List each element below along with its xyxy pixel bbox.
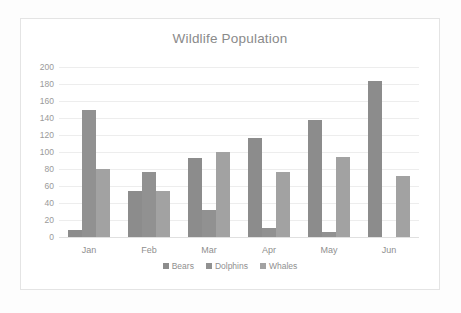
chart-legend: BearsDolphinsWhales <box>21 261 439 271</box>
bar-group-bars <box>359 67 419 237</box>
bar-whales-feb[interactable] <box>156 191 170 237</box>
bar-dolphins-may[interactable] <box>322 232 336 237</box>
x-axis-tick-label: Jun <box>359 245 419 255</box>
x-axis-tick-label: Mar <box>179 245 239 255</box>
y-axis-tick-label: 180 <box>40 79 54 89</box>
y-axis-tick-label: 0 <box>49 232 54 242</box>
bar-group: Apr <box>239 67 299 237</box>
legend-item-whales[interactable]: Whales <box>260 261 297 271</box>
y-axis-tick-label: 40 <box>45 198 54 208</box>
legend-item-bears[interactable]: Bears <box>163 261 194 271</box>
bar-group-bars <box>179 67 239 237</box>
bar-group: Feb <box>119 67 179 237</box>
legend-item-dolphins[interactable]: Dolphins <box>206 261 248 271</box>
y-axis-tick-label: 120 <box>40 130 54 140</box>
bar-dolphins-mar[interactable] <box>202 210 216 237</box>
x-axis-tick-label: Jan <box>59 245 119 255</box>
legend-label: Dolphins <box>215 261 248 271</box>
bar-whales-jan[interactable] <box>96 169 110 237</box>
legend-swatch-icon <box>206 263 212 269</box>
bar-group: Jan <box>59 67 119 237</box>
bar-bears-apr[interactable] <box>248 138 262 237</box>
bar-group: Jun <box>359 67 419 237</box>
chart-title: Wildlife Population <box>21 31 439 46</box>
bar-group-bars <box>239 67 299 237</box>
bar-bears-jun[interactable] <box>368 81 382 237</box>
legend-swatch-icon <box>260 263 266 269</box>
bar-group: Mar <box>179 67 239 237</box>
gridline <box>59 237 419 238</box>
legend-swatch-icon <box>163 263 169 269</box>
legend-label: Bears <box>172 261 194 271</box>
x-axis-tick-label: Apr <box>239 245 299 255</box>
bar-group-bars <box>119 67 179 237</box>
bar-whales-may[interactable] <box>336 157 350 237</box>
y-axis-tick-label: 200 <box>40 62 54 72</box>
bar-whales-apr[interactable] <box>276 172 290 237</box>
bar-group-bars <box>59 67 119 237</box>
bar-dolphins-jan[interactable] <box>82 110 96 237</box>
bar-dolphins-apr[interactable] <box>262 228 276 237</box>
bar-bears-may[interactable] <box>308 120 322 237</box>
bar-dolphins-feb[interactable] <box>142 172 156 237</box>
bar-bears-feb[interactable] <box>128 191 142 237</box>
y-axis-tick-label: 140 <box>40 113 54 123</box>
bar-whales-mar[interactable] <box>216 152 230 237</box>
bar-groups: JanFebMarAprMayJun <box>59 67 419 237</box>
y-axis-tick-label: 80 <box>45 164 54 174</box>
x-axis-tick-label: Feb <box>119 245 179 255</box>
bar-group: May <box>299 67 359 237</box>
y-axis-tick-label: 160 <box>40 96 54 106</box>
bar-group-bars <box>299 67 359 237</box>
legend-label: Whales <box>269 261 297 271</box>
chart-screenshot: Wildlife Population 20018016014012010080… <box>0 0 461 313</box>
bar-whales-jun[interactable] <box>396 176 410 237</box>
chart-container: Wildlife Population 20018016014012010080… <box>20 18 440 290</box>
y-axis-tick-label: 60 <box>45 181 54 191</box>
y-axis-tick-label: 20 <box>45 215 54 225</box>
plot-area: 200180160140120100806040200 JanFebMarApr… <box>59 67 419 237</box>
x-axis-tick-label: May <box>299 245 359 255</box>
bar-bears-mar[interactable] <box>188 158 202 237</box>
y-axis-tick-label: 100 <box>40 147 54 157</box>
bar-bears-jan[interactable] <box>68 230 82 237</box>
